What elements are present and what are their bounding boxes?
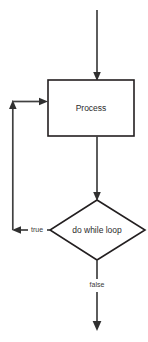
- process-node-label: Process: [76, 103, 107, 113]
- edge-true-loop: true: [9, 98, 50, 234]
- true-branch-return-arrow-head: [39, 98, 48, 106]
- edge-process-to-decision: [93, 136, 101, 201]
- false-branch-label: false: [90, 281, 105, 288]
- edge-entry-arrow: [93, 10, 101, 81]
- edge-false-exit: false: [90, 260, 105, 331]
- decision-node-label: do while loop: [72, 225, 122, 235]
- false-branch-arrow-head: [93, 321, 102, 331]
- flowchart-canvas: Process do while loop true: [0, 0, 148, 342]
- flowchart-diagram: Process do while loop true: [0, 0, 148, 342]
- true-branch-label: true: [31, 226, 43, 233]
